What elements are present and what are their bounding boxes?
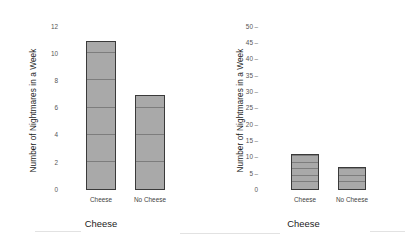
x-axis-title: Cheese bbox=[0, 218, 202, 229]
bar-segment-line bbox=[292, 168, 318, 169]
bar-segment-line bbox=[87, 52, 115, 53]
plot-area bbox=[264, 27, 392, 190]
y-axis-tick-5: 5– bbox=[249, 171, 258, 177]
y-axis-tick-50: 50– bbox=[246, 24, 258, 30]
x-axis-category-label-cheese: Cheese bbox=[73, 196, 129, 203]
y-axis-tick-2: 2 bbox=[54, 160, 58, 166]
y-axis-tick-0: 0 bbox=[254, 187, 258, 193]
y-axis-tick-labels: 121086420 bbox=[32, 0, 58, 240]
y-axis-tick-6: 6 bbox=[54, 105, 58, 111]
y-axis-tick-10: 10– bbox=[246, 154, 258, 160]
bar-cheese bbox=[86, 41, 116, 190]
y-axis-tick-4: 4 bbox=[54, 132, 58, 138]
bar-segment-line bbox=[292, 175, 318, 176]
y-axis-tick-8: 8 bbox=[54, 78, 58, 84]
y-axis-tick-30: 30– bbox=[246, 89, 258, 95]
y-axis-tick-35: 35– bbox=[246, 73, 258, 79]
y-axis-tick-mark: – bbox=[254, 154, 258, 160]
bar-segment-line bbox=[339, 175, 365, 176]
y-axis-tick-45: 45– bbox=[246, 40, 258, 46]
bar-segment-line bbox=[292, 155, 318, 156]
y-axis-tick-40: 40– bbox=[246, 56, 258, 62]
bar-no-cheese bbox=[338, 167, 366, 190]
bar-segment-line bbox=[136, 161, 164, 162]
bar-segment-line bbox=[136, 107, 164, 108]
bar-segment-line bbox=[292, 181, 318, 182]
y-axis-tick-mark: – bbox=[254, 171, 258, 177]
bar-segment-line bbox=[87, 134, 115, 135]
y-axis-tick-mark: – bbox=[254, 105, 258, 111]
x-axis-category-label-no-cheese: No Cheese bbox=[122, 196, 178, 203]
y-axis-tick-mark: – bbox=[254, 138, 258, 144]
bar-cheese bbox=[291, 154, 319, 190]
chart-panel-right: Number of Nightmares in a Week 50–45–40–… bbox=[202, 0, 405, 240]
y-axis-tick-mark: – bbox=[254, 89, 258, 95]
y-axis-tick-20: 20– bbox=[246, 122, 258, 128]
x-axis-category-label-no-cheese: No Cheese bbox=[324, 196, 380, 203]
decorative-rule-right bbox=[180, 233, 280, 234]
decorative-rule-right-2 bbox=[370, 231, 405, 232]
y-axis-tick-10: 10 bbox=[51, 51, 58, 57]
y-axis-tick-25: 25– bbox=[246, 105, 258, 111]
y-axis-tick-mark: – bbox=[254, 122, 258, 128]
y-axis-tick-mark: – bbox=[254, 56, 258, 62]
plot-area bbox=[60, 27, 190, 190]
y-axis-tick-12: 12 bbox=[51, 24, 58, 30]
bar-no-cheese bbox=[135, 95, 165, 190]
y-axis-tick-labels: 50–45–40–35–30–25–20–15–10–5–0 bbox=[232, 0, 258, 240]
y-axis-tick-mark: – bbox=[254, 73, 258, 79]
bar-segment-line bbox=[87, 79, 115, 80]
y-axis-tick-mark: – bbox=[254, 24, 258, 30]
decorative-rule-left bbox=[35, 231, 81, 232]
y-axis-tick-mark: – bbox=[254, 40, 258, 46]
bar-segment-line bbox=[87, 161, 115, 162]
chart-panel-left: Number of Nightmares in a Week 121086420… bbox=[0, 0, 202, 240]
y-axis-tick-15: 15– bbox=[246, 138, 258, 144]
x-axis-title: Cheese bbox=[202, 218, 405, 229]
bar-segment-line bbox=[292, 162, 318, 163]
y-axis-tick-0: 0 bbox=[54, 187, 58, 193]
bar-segment-line bbox=[136, 134, 164, 135]
figure-two-panel-bar-charts: Number of Nightmares in a Week 121086420… bbox=[0, 0, 405, 240]
bar-segment-line bbox=[339, 181, 365, 182]
bar-segment-line bbox=[87, 107, 115, 108]
bar-segment-line bbox=[339, 168, 365, 169]
